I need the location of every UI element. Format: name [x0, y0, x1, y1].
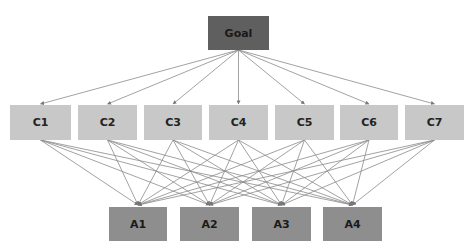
criterion-node-c5: C5 [275, 105, 334, 140]
criteria-to-alternative-arrows [41, 140, 435, 205]
alternative-node-a4: A4 [323, 207, 382, 241]
criterion-label: C3 [165, 116, 181, 129]
edge-line [138, 140, 435, 205]
edge-line [239, 50, 435, 104]
edge-line [41, 50, 239, 104]
edge-line [41, 140, 210, 205]
goal-node: Goal [208, 16, 269, 50]
alternative-node-a1: A1 [109, 207, 167, 241]
edge-line [41, 140, 353, 205]
edge-line [138, 140, 305, 205]
alternative-label: A4 [344, 218, 360, 231]
edge-line [173, 140, 210, 205]
criterion-node-c2: C2 [78, 105, 137, 140]
alternative-node-a3: A3 [252, 207, 311, 241]
goal-to-criteria-arrows [41, 50, 435, 104]
criterion-node-c4: C4 [209, 105, 268, 140]
edge-line [138, 140, 369, 205]
edge-line [173, 50, 239, 104]
criterion-label: C2 [100, 116, 116, 129]
edge-line [239, 50, 370, 104]
alternative-node-a2: A2 [180, 207, 239, 241]
edge-line [353, 140, 370, 205]
criterion-node-c7: C7 [405, 105, 464, 140]
criterion-node-c6: C6 [340, 105, 398, 140]
criterion-label: C6 [361, 116, 377, 129]
alternative-label: A2 [201, 218, 217, 231]
goal-label: Goal [225, 27, 253, 40]
criterion-label: C7 [427, 116, 443, 129]
edge-line [239, 50, 305, 104]
criterion-label: C4 [231, 116, 247, 129]
edge-line [108, 50, 239, 104]
edge-line [353, 140, 435, 205]
alternative-label: A1 [130, 218, 146, 231]
edge-line [173, 140, 282, 205]
criterion-label: C5 [297, 116, 313, 129]
alternative-label: A3 [273, 218, 289, 231]
edge-line [210, 140, 435, 205]
criterion-node-c3: C3 [144, 105, 202, 140]
edge-line [108, 140, 353, 205]
criterion-label: C1 [33, 116, 49, 129]
criterion-node-c1: C1 [10, 105, 71, 140]
